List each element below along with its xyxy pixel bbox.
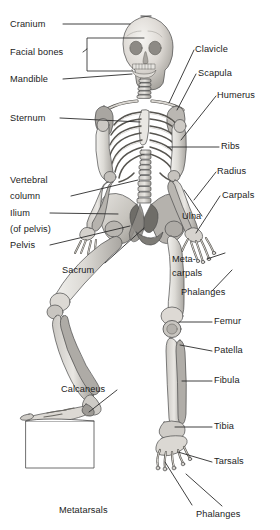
label-tarsals: Tarsals: [214, 456, 244, 467]
label-phalanges-foot: Phalanges: [196, 509, 240, 520]
leader-humerus: [181, 96, 216, 140]
label-humerus: Humerus: [217, 90, 255, 101]
label-metacarpals-line1: Meta-: [172, 254, 196, 265]
left-hand-group: [75, 227, 96, 254]
label-ilium-line2: (of pelvis): [10, 224, 51, 235]
cervical-spine-group: [137, 79, 151, 98]
leader-phalanges-foot: [186, 474, 222, 506]
vertebral-column-group: [137, 150, 151, 203]
leader-tarsals: [178, 452, 212, 462]
leader-clavicle: [169, 50, 194, 103]
support-block: [26, 419, 94, 468]
label-cranium: Cranium: [10, 19, 45, 30]
label-pelvis: Pelvis: [10, 240, 35, 251]
label-fibula: Fibula: [214, 375, 240, 386]
leader-mandible: [63, 74, 132, 79]
leader-vertebral-column: [71, 180, 138, 196]
label-clavicle: Clavicle: [195, 44, 228, 55]
leader-radius: [194, 172, 216, 200]
leader-metatarsals: [165, 462, 192, 505]
label-calcaneus: Calcaneus: [61, 384, 105, 395]
label-facial-bones: Facial bones: [10, 47, 63, 58]
label-tibia: Tibia: [214, 421, 234, 432]
label-sacrum: Sacrum: [62, 265, 94, 276]
label-radius: Radius: [217, 166, 246, 177]
skeleton-diagram: Cranium Facial bones Mandible Sternum Ve…: [0, 0, 280, 530]
label-ulna: Ulna: [182, 211, 201, 222]
label-vertebral-column-line2: column: [10, 191, 40, 202]
label-mandible: Mandible: [10, 74, 48, 85]
right-foot-group: [156, 436, 192, 471]
label-ribs: Ribs: [221, 141, 240, 152]
label-phalanges-hand: Phalanges: [181, 287, 225, 298]
label-ilium-line1: Ilium: [10, 208, 30, 219]
leader-metacarpals: [207, 253, 225, 259]
label-scapula: Scapula: [198, 68, 232, 79]
label-carpals: Carpals: [222, 190, 254, 201]
label-patella: Patella: [214, 345, 243, 356]
label-vertebral-column-line1: Vertebral: [10, 175, 48, 186]
label-metatarsals: Metatarsals: [59, 505, 108, 516]
label-femur: Femur: [214, 316, 241, 327]
label-sternum: Sternum: [10, 113, 45, 124]
label-metacarpals-line2: carpals: [172, 268, 202, 279]
